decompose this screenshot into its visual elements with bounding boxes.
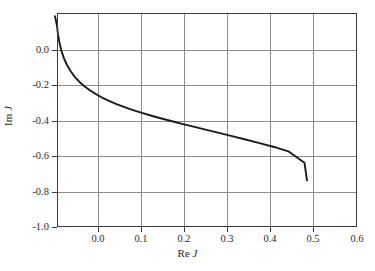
tick-x	[141, 227, 142, 232]
tick-x	[98, 227, 99, 232]
tick-x	[227, 227, 228, 232]
ticklabel-x: 0.4	[250, 233, 290, 244]
ticklabel-x: 0.0	[78, 233, 118, 244]
ticklabel-x: 0.3	[207, 233, 247, 244]
ticklabel-y: -1.0	[2, 221, 49, 232]
ticklabel-x: 0.2	[164, 233, 204, 244]
ticklabel-y: -0.6	[2, 150, 49, 161]
y-axis-title-prefix: Im	[2, 114, 14, 126]
tick-x	[270, 227, 271, 232]
tick-x	[184, 227, 185, 232]
tick-y	[52, 192, 57, 193]
y-axis-title: Im J	[2, 86, 14, 146]
y-axis-title-variable: J	[2, 106, 14, 111]
tick-y	[52, 121, 57, 122]
ticklabel-x: 0.5	[293, 233, 333, 244]
ticklabel-y: 0.0	[2, 44, 49, 55]
x-axis-title: Re J	[0, 247, 375, 259]
plot-area	[57, 13, 357, 227]
ticklabel-x: 0.6	[337, 233, 375, 244]
tick-y	[52, 156, 57, 157]
tick-x	[313, 227, 314, 232]
ticklabel-x: 0.1	[121, 233, 161, 244]
x-axis-title-prefix: Re	[178, 247, 190, 259]
x-axis-title-variable: J	[193, 247, 198, 259]
data-curve	[57, 13, 357, 227]
tick-y	[52, 50, 57, 51]
ticklabel-y: -0.8	[2, 186, 49, 197]
chart-figure: 0.0 0.1 0.2 0.3 0.4 0.5 0.6 0.0 -0.2 -0.…	[0, 0, 375, 271]
tick-y	[52, 227, 57, 228]
tick-y	[52, 85, 57, 86]
